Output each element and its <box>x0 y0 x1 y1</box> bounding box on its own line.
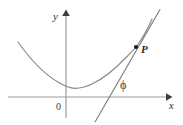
angle-phi-label: ϕ <box>120 78 126 92</box>
figure-container: y x 0 P ϕ <box>0 0 183 125</box>
y-axis-arrowhead <box>62 10 70 17</box>
tangent-line <box>95 10 160 122</box>
parabola-curve <box>18 19 152 88</box>
figure-svg: y x 0 P ϕ <box>0 0 183 125</box>
origin-label: 0 <box>56 101 61 112</box>
point-p-label: P <box>141 43 148 55</box>
y-axis-label: y <box>52 10 58 22</box>
x-axis-label: x <box>168 100 174 111</box>
tangent-point-marker <box>134 45 138 49</box>
